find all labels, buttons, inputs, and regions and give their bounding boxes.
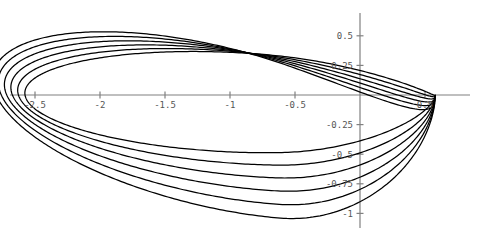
plot-canvas: -2.5-2-1.5-1-0.50.50.50.25-0.25-0.5-0.75… [0,0,480,238]
parametric-plot-figure: -2.5-2-1.5-1-0.50.50.50.25-0.25-0.5-0.75… [0,0,480,238]
y-tick-label: 0.25 [331,61,353,71]
plot-background [0,0,480,238]
y-tick-label: 0.5 [337,31,353,41]
y-tick-label: -0.5 [331,150,353,160]
x-tick-label: 0.5 [417,100,433,110]
y-tick-label: -0.75 [326,179,353,189]
x-tick-label: -1.5 [154,100,176,110]
x-tick-label: -0.5 [284,100,306,110]
x-tick-label: -1 [225,100,236,110]
y-tick-label: -1 [342,209,353,219]
y-tick-label: -0.25 [326,120,353,130]
x-tick-label: -2.5 [24,100,46,110]
x-tick-label: -2 [95,100,106,110]
